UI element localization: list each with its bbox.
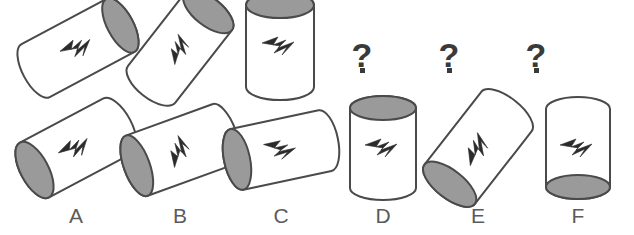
sequence-cylinder-q3-end-cap xyxy=(246,0,314,18)
question-mark-glyph: ? xyxy=(352,36,373,74)
question-mark-placeholder-6: ? xyxy=(521,38,551,72)
question-mark-placeholder-5: ? xyxy=(434,38,464,72)
option-cylinder-F-end-cap xyxy=(546,175,610,199)
option-label-F[interactable]: F xyxy=(558,205,598,226)
question-mark-placeholder-4: ? xyxy=(347,38,377,72)
question-mark-glyph: ? xyxy=(526,36,547,74)
option-cylinder-F[interactable] xyxy=(487,76,634,220)
question-mark-glyph: ? xyxy=(439,36,460,74)
mental-rotation-puzzle: ???ABCDEF xyxy=(0,0,634,235)
